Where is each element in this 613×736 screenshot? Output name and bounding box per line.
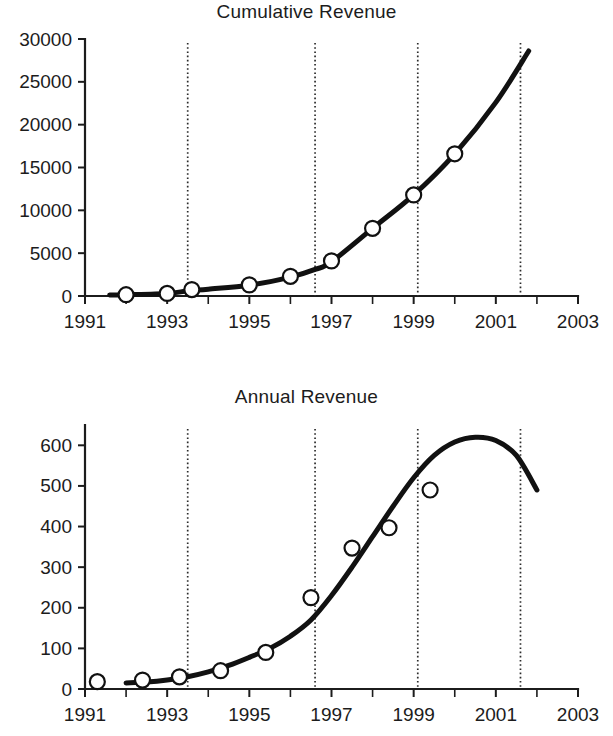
- chart-panel-annual-revenue: Annual Revenue 0100200300400500600199119…: [0, 368, 613, 736]
- data-point-marker: [258, 645, 273, 660]
- data-point-marker: [160, 286, 175, 301]
- x-tick-label: 1991: [64, 311, 106, 332]
- data-point-marker: [447, 146, 462, 161]
- data-point-marker: [184, 282, 199, 297]
- x-tick-label: 2001: [475, 704, 517, 725]
- plot-area-annual: 0100200300400500600199119931995199719992…: [0, 368, 613, 736]
- y-tick-label: 20000: [19, 114, 72, 135]
- data-point-marker: [90, 674, 105, 689]
- y-tick-label: 100: [40, 638, 72, 659]
- y-tick-label: 15000: [19, 157, 72, 178]
- data-point-marker: [382, 520, 397, 535]
- y-tick-label: 0: [61, 679, 72, 700]
- y-tick-label: 25000: [19, 71, 72, 92]
- plot-area-cumulative: 0500010000150002000025000300001991199319…: [0, 0, 613, 368]
- y-tick-label: 30000: [19, 29, 72, 50]
- x-tick-label: 2003: [557, 311, 599, 332]
- x-tick-label: 1991: [64, 704, 106, 725]
- data-point-marker: [406, 187, 421, 202]
- y-tick-label: 600: [40, 435, 72, 456]
- data-point-marker: [365, 221, 380, 236]
- data-point-marker: [242, 277, 257, 292]
- y-tick-label: 400: [40, 516, 72, 537]
- data-point-marker: [324, 253, 339, 268]
- y-tick-label: 0: [61, 286, 72, 307]
- x-tick-label: 1995: [228, 704, 270, 725]
- y-tick-label: 10000: [19, 200, 72, 221]
- data-point-marker: [283, 269, 298, 284]
- data-point-marker: [172, 669, 187, 684]
- data-point-marker: [303, 590, 318, 605]
- x-tick-label: 1995: [228, 311, 270, 332]
- x-tick-label: 1997: [310, 704, 352, 725]
- x-tick-label: 1997: [310, 311, 352, 332]
- data-curve: [110, 51, 529, 295]
- x-tick-label: 1999: [393, 704, 435, 725]
- y-tick-label: 300: [40, 557, 72, 578]
- x-tick-label: 2003: [557, 704, 599, 725]
- x-tick-label: 1999: [393, 311, 435, 332]
- chart-panel-cumulative-revenue: Cumulative Revenue 050001000015000200002…: [0, 0, 613, 368]
- data-point-marker: [423, 482, 438, 497]
- y-tick-label: 500: [40, 475, 72, 496]
- data-point-marker: [345, 541, 360, 556]
- data-point-marker: [135, 673, 150, 688]
- y-tick-label: 200: [40, 597, 72, 618]
- data-point-marker: [213, 663, 228, 678]
- figure-root: Cumulative Revenue 050001000015000200002…: [0, 0, 613, 736]
- x-tick-label: 2001: [475, 311, 517, 332]
- x-tick-label: 1993: [146, 311, 188, 332]
- data-point-marker: [119, 287, 134, 302]
- x-tick-label: 1993: [146, 704, 188, 725]
- y-tick-label: 5000: [30, 243, 72, 264]
